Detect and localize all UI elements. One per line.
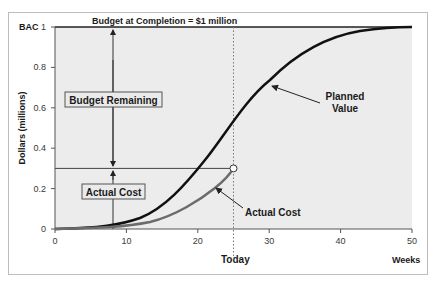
y-tick-marks <box>51 27 55 229</box>
actual-cost-today-marker <box>230 165 237 172</box>
y-tick-0.2: 0.2 <box>33 184 46 194</box>
y-tick-0.4: 0.4 <box>33 143 46 153</box>
bac-line-label: Budget at Completion = $1 million <box>92 16 237 26</box>
earned-value-chart: 0 0.2 0.4 0.6 0.8 1 BAC 0 10 20 30 40 50… <box>0 0 434 282</box>
planned-value-label-line2: Value <box>332 103 359 114</box>
y-axis-title: Dollars (millions) <box>17 91 27 164</box>
bac-label: BAC <box>19 22 39 32</box>
x-tick-40: 40 <box>336 236 346 246</box>
x-tick-10: 10 <box>121 236 131 246</box>
x-tick-50: 50 <box>407 236 417 246</box>
x-axis-weeks-label: Weeks <box>392 255 420 265</box>
budget-remaining-box: Budget Remaining <box>65 92 162 107</box>
planned-value-label-line1: Planned <box>326 91 365 102</box>
actual-cost-box-label: Actual Cost <box>86 187 142 198</box>
y-tick-0.8: 0.8 <box>33 62 46 72</box>
actual-cost-box: Actual Cost <box>82 184 145 199</box>
y-tick-1: 1 <box>41 22 46 32</box>
actual-cost-arrow-label: Actual Cost <box>245 207 301 218</box>
y-tick-0: 0 <box>41 224 46 234</box>
x-tick-0: 0 <box>52 236 57 246</box>
x-tick-20: 20 <box>193 236 203 246</box>
budget-remaining-label: Budget Remaining <box>69 95 157 106</box>
x-tick-30: 30 <box>264 236 274 246</box>
today-label: Today <box>221 254 250 265</box>
y-tick-0.6: 0.6 <box>33 103 46 113</box>
